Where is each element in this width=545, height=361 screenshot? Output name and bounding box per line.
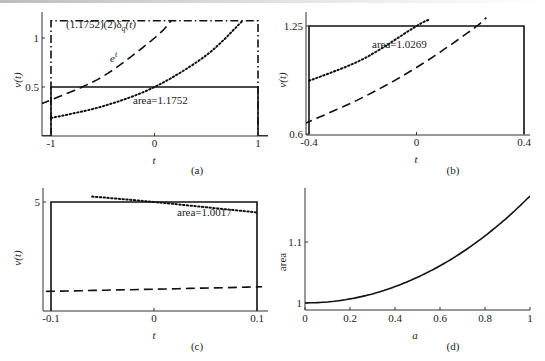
x-tick-label: 0.1 bbox=[250, 312, 264, 324]
y-tick-label: 1 bbox=[34, 32, 40, 44]
chart-panel-c: -0.100.15tv(t)(c)area=1.0017 bbox=[11, 188, 268, 353]
y-tick-label: 5 bbox=[35, 196, 41, 208]
series-solid-line bbox=[305, 196, 530, 303]
y-tick-label: 1 bbox=[297, 297, 303, 309]
x-tick-label: 0.6 bbox=[433, 312, 447, 324]
series-dashed-line bbox=[46, 287, 262, 292]
annotation-delta: (1.1752)(2)δq(t) bbox=[66, 18, 136, 33]
panel-label: (b) bbox=[447, 164, 460, 177]
panel-label: (c) bbox=[191, 340, 204, 353]
x-tick-label: 0 bbox=[302, 312, 308, 324]
x-tick-label: -0.1 bbox=[42, 312, 59, 324]
series-solid-line bbox=[51, 202, 257, 311]
series-dotted-line bbox=[92, 197, 257, 213]
x-axis-label: a bbox=[412, 329, 418, 341]
x-tick-label: 0 bbox=[152, 137, 158, 149]
x-tick-label: 0.4 bbox=[388, 312, 402, 324]
x-tick-label: 0 bbox=[414, 136, 420, 148]
y-tick-label: 1.25 bbox=[284, 20, 304, 32]
chart-panel-b: -0.400.40.61.25tv(t)(b)area=1.0269 bbox=[276, 12, 531, 177]
x-axis-label: t bbox=[414, 153, 418, 165]
x-tick-label: 1 bbox=[527, 312, 533, 324]
panel-label: (d) bbox=[447, 340, 460, 353]
chart-panel-a: -1010.51tv(t)(a)(1.1752)(2)δq(t)etarea=1… bbox=[11, 12, 268, 177]
x-axis-label: t bbox=[152, 329, 156, 341]
y-axis-label: area bbox=[276, 253, 288, 271]
annotation-area-c: area=1.0017 bbox=[177, 206, 232, 218]
y-axis-label: v(t) bbox=[276, 72, 289, 88]
y-axis-label: v(t) bbox=[11, 72, 24, 88]
x-tick-label: 0.4 bbox=[517, 136, 531, 148]
x-tick-label: 0.2 bbox=[343, 312, 357, 324]
panel-label: (a) bbox=[191, 164, 204, 177]
x-tick-label: -1 bbox=[46, 137, 55, 149]
annotation-area-a: area=1.1752 bbox=[133, 94, 188, 106]
series-dashed-line bbox=[41, 21, 172, 104]
figure-canvas: -1010.51tv(t)(a)(1.1752)(2)δq(t)etarea=1… bbox=[0, 0, 545, 361]
y-axis-label: v(t) bbox=[11, 250, 24, 266]
annotation-et: et bbox=[110, 50, 118, 64]
y-tick-label: 1.1 bbox=[288, 236, 302, 248]
x-tick-label: 1 bbox=[255, 137, 261, 149]
annotation-area-b: area=1.0269 bbox=[372, 38, 427, 50]
x-tick-label: 0 bbox=[151, 312, 157, 324]
series-dashed-line bbox=[304, 18, 487, 124]
y-tick-label: 0.5 bbox=[25, 81, 39, 93]
chart-panel-d: 00.20.40.60.8111.1aarea(d) bbox=[276, 188, 533, 353]
y-tick-label: 0.6 bbox=[289, 128, 303, 140]
x-tick-label: 0.8 bbox=[478, 312, 492, 324]
series-dotted-line bbox=[309, 19, 430, 80]
x-axis-label: t bbox=[152, 154, 156, 166]
